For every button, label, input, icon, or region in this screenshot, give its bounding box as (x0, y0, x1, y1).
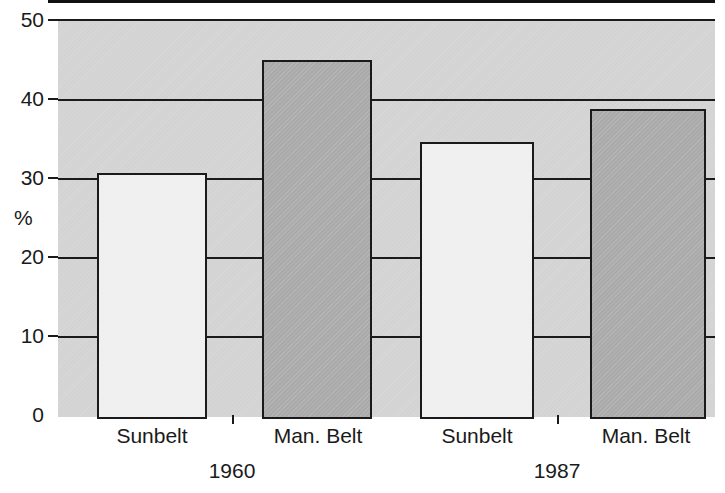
group-label-1960: 1960 (172, 459, 292, 483)
bar-sunbelt-1960 (97, 173, 207, 419)
bar-fill (422, 144, 532, 417)
category-label-man-belt-1987: Man. Belt (582, 424, 710, 448)
y-tick-label-50: 50 (0, 8, 44, 32)
group-label-1987: 1987 (497, 459, 617, 483)
axis-tick-1987 (557, 415, 559, 424)
category-label-man-belt-1960: Man. Belt (255, 424, 381, 448)
y-tick-mark-20 (48, 256, 58, 258)
y-tick-label-20: 20 (0, 245, 44, 269)
y-tick-label-0: 0 (0, 403, 44, 427)
y-tick-mark-10 (48, 335, 58, 337)
bar-man-belt-1987 (590, 109, 706, 419)
y-tick-label-10: 10 (0, 324, 44, 348)
category-label-sunbelt-1960: Sunbelt (97, 424, 207, 448)
bar-man-belt-1960 (262, 60, 372, 419)
bar-chart: % 0 10 20 30 40 50 Sun (0, 0, 725, 493)
y-tick-mark-50 (48, 19, 58, 21)
y-axis-label: % (14, 206, 33, 230)
y-tick-label-30: 30 (0, 166, 44, 190)
bar-fill (264, 62, 370, 417)
bar-fill (592, 111, 704, 417)
category-label-sunbelt-1987: Sunbelt (420, 424, 534, 448)
y-tick-label-40: 40 (0, 87, 44, 111)
bar-fill (99, 175, 205, 417)
x-axis-line (48, 0, 715, 3)
plot-area (58, 19, 715, 417)
bar-sunbelt-1987 (420, 142, 534, 419)
y-tick-mark-30 (48, 177, 58, 179)
gridline-40 (58, 99, 715, 101)
y-tick-mark-40 (48, 98, 58, 100)
axis-tick-1960 (232, 415, 234, 424)
